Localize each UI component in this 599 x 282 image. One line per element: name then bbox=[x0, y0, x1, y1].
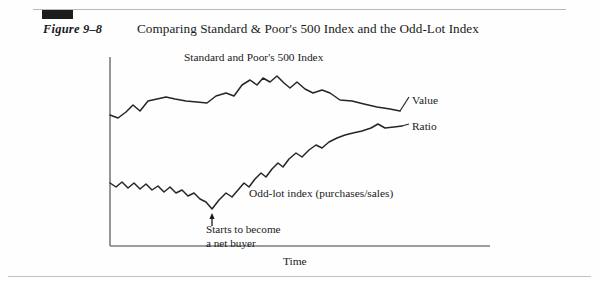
series-label-value: Value bbox=[412, 94, 438, 106]
figure-page: Figure 9–8 Comparing Standard & Poor's 5… bbox=[0, 0, 599, 282]
series-label-ratio: Ratio bbox=[412, 120, 437, 132]
leader-line-group bbox=[400, 97, 409, 126]
x-axis-label: Time bbox=[283, 255, 307, 267]
callout-line-2: a net buyer bbox=[206, 237, 281, 251]
bottom-rule bbox=[8, 276, 591, 277]
series-line-sp500 bbox=[110, 76, 400, 118]
callout-line-1: Starts to become bbox=[206, 223, 281, 237]
leader-line-value bbox=[400, 97, 409, 111]
series-label-oddlot: Odd-lot index (purchases/sales) bbox=[249, 187, 393, 199]
leader-line-ratio bbox=[402, 124, 409, 126]
chart-canvas bbox=[0, 0, 599, 282]
chart-svg bbox=[0, 0, 599, 282]
series-label-sp500: Standard and Poor's 500 Index bbox=[184, 51, 323, 63]
callout-net-buyer: Starts to become a net buyer bbox=[206, 223, 281, 250]
net-buyer-arrow-head bbox=[209, 213, 214, 219]
